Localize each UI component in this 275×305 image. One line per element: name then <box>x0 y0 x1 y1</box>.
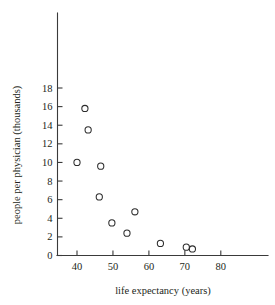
data-point-marker <box>183 244 189 250</box>
data-point-marker <box>96 194 102 200</box>
x-axis-ticks: 4050607080 <box>72 251 226 272</box>
y-tick-label: 16 <box>42 101 53 112</box>
data-point-marker <box>109 220 115 226</box>
data-point-marker <box>98 163 104 169</box>
data-point-marker <box>189 246 195 252</box>
y-tick-label: 14 <box>42 120 53 131</box>
x-tick-label: 50 <box>108 261 119 272</box>
scatter-plot-figure: 024681012141618 4050607080 life expectan… <box>0 0 275 305</box>
plot-canvas: 024681012141618 4050607080 life expectan… <box>0 0 275 305</box>
y-axis-ticks: 024681012141618 <box>42 83 63 262</box>
y-tick-label: 8 <box>47 176 52 187</box>
y-tick-label: 10 <box>42 157 53 168</box>
y-tick-label: 6 <box>47 194 52 205</box>
data-point-marker <box>85 127 91 133</box>
y-tick-label: 0 <box>47 250 52 261</box>
data-point-marker <box>82 105 88 111</box>
data-point-marker <box>157 240 163 246</box>
data-point-marker <box>124 230 130 236</box>
y-tick-label: 4 <box>47 213 53 224</box>
x-tick-label: 40 <box>72 261 83 272</box>
data-point-marker <box>74 159 80 165</box>
x-tick-label: 60 <box>144 261 155 272</box>
x-axis-title: life expectancy (years) <box>115 285 211 297</box>
y-tick-label: 18 <box>42 83 53 94</box>
x-tick-label: 70 <box>180 261 191 272</box>
data-point-series <box>74 105 196 252</box>
x-tick-label: 80 <box>216 261 227 272</box>
y-axis-title: people per physician (thousands) <box>11 85 23 224</box>
y-tick-label: 2 <box>47 231 52 242</box>
data-point-marker <box>132 209 138 215</box>
axes <box>57 13 268 256</box>
y-tick-label: 12 <box>42 138 53 149</box>
